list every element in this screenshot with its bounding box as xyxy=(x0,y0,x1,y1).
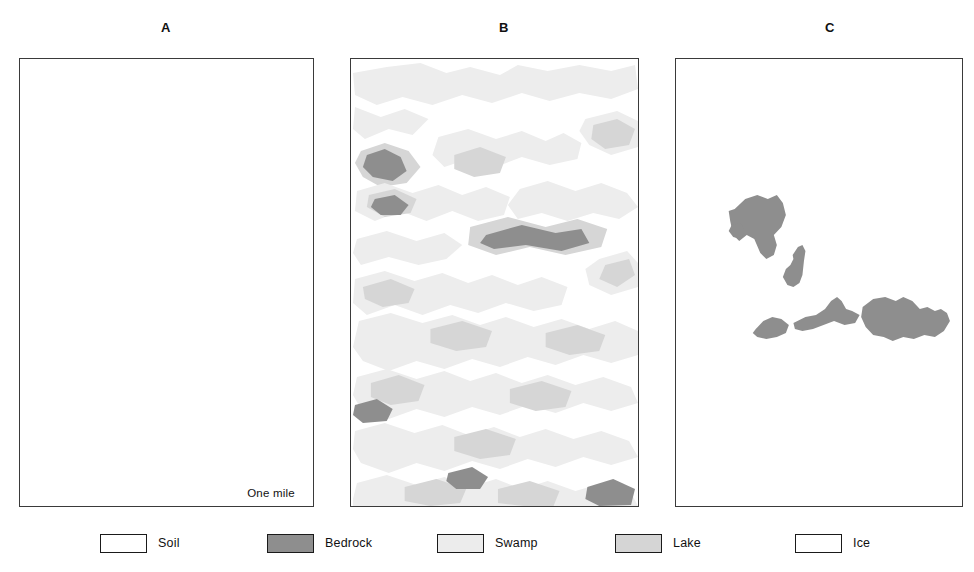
scale-bar-label: One mile xyxy=(225,487,314,499)
legend-item-soil: Soil xyxy=(100,528,180,558)
map-region-swamp xyxy=(353,63,638,105)
legend: Soil Bedrock Swamp Lake Ice xyxy=(0,528,974,566)
legend-label-bedrock: Bedrock xyxy=(325,536,372,550)
map-panel-c xyxy=(675,58,963,507)
panel-label-c: C xyxy=(810,20,850,35)
legend-label-soil: Soil xyxy=(158,536,180,550)
legend-swatch-soil xyxy=(100,534,147,553)
map-region-bedrock xyxy=(753,317,789,339)
legend-swatch-swamp xyxy=(437,534,484,553)
map-region-swamp xyxy=(508,181,638,221)
map-region-bedrock xyxy=(793,297,859,331)
map-panel-b xyxy=(350,58,639,507)
map-panel-a: One mile xyxy=(19,58,314,507)
map-region-bedrock xyxy=(783,245,806,287)
map-canvas-a xyxy=(20,59,313,506)
legend-label-ice: Ice xyxy=(853,536,870,550)
legend-item-ice: Ice xyxy=(795,528,870,558)
map-region-bedrock xyxy=(446,467,488,489)
scale-bar: One mile xyxy=(225,487,314,507)
figure-container: A B C One mile Soil Bedrock xyxy=(0,0,974,572)
map-canvas-b xyxy=(351,59,638,506)
panel-label-a: A xyxy=(146,20,186,35)
legend-label-swamp: Swamp xyxy=(495,536,538,550)
legend-swatch-lake xyxy=(615,534,662,553)
legend-item-lake: Lake xyxy=(615,528,701,558)
map-region-swamp xyxy=(353,107,428,139)
map-region-bedrock xyxy=(585,479,635,506)
legend-item-swamp: Swamp xyxy=(437,528,538,558)
map-canvas-c xyxy=(676,59,962,506)
legend-label-lake: Lake xyxy=(673,536,701,550)
legend-item-bedrock: Bedrock xyxy=(267,528,372,558)
legend-swatch-bedrock xyxy=(267,534,314,553)
map-region-bedrock xyxy=(861,297,950,341)
map-region-swamp xyxy=(353,231,462,265)
legend-swatch-ice xyxy=(795,534,842,553)
panel-label-b: B xyxy=(484,20,524,35)
